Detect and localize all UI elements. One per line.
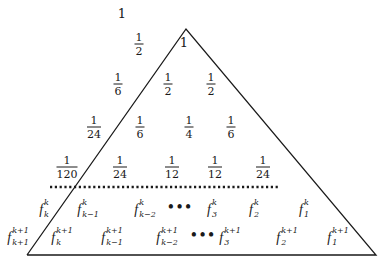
numerator: 1 xyxy=(114,72,123,84)
fraction-label: 124 xyxy=(87,115,101,140)
f-term-label: fk3 xyxy=(207,202,217,218)
f-term-label: fk+1k+1 xyxy=(7,230,29,246)
subscript: 1 xyxy=(332,239,349,247)
denominator: 24 xyxy=(87,128,101,140)
numerator: 1 xyxy=(63,155,72,167)
subscript: k−1 xyxy=(82,211,99,219)
numerator: 1 xyxy=(227,115,236,127)
f-term-label: fk+13 xyxy=(219,230,241,246)
denominator: 24 xyxy=(113,168,127,180)
denominator: 6 xyxy=(228,128,235,140)
numerator: 1 xyxy=(164,72,173,84)
fraction-label: 1120 xyxy=(57,155,78,180)
scripts: k2 xyxy=(254,202,259,218)
fraction-label: 124 xyxy=(113,155,127,180)
subscript: k−1 xyxy=(106,239,123,247)
denominator: 12 xyxy=(165,168,179,180)
superscript: k+1 xyxy=(281,227,298,235)
scripts: k3 xyxy=(212,202,217,218)
f-symbol: f xyxy=(7,231,11,245)
f-term-label: fk+1k−2 xyxy=(156,230,178,246)
f-symbol: f xyxy=(134,203,138,217)
f-term-label: fk1 xyxy=(299,202,309,218)
f-symbol: f xyxy=(39,203,43,217)
top-one-label: 1 xyxy=(118,7,126,20)
scripts: k+1k−2 xyxy=(161,230,178,246)
numerator: 1 xyxy=(168,155,177,167)
apex-one-label: 1 xyxy=(180,36,188,49)
denominator: 6 xyxy=(137,128,144,140)
superscript: k+1 xyxy=(332,227,349,235)
superscript: k xyxy=(254,199,259,207)
scripts: k+1k−1 xyxy=(106,230,123,246)
f-term-label: fkk xyxy=(39,202,49,218)
numerator: 1 xyxy=(207,72,216,84)
numerator: 1 xyxy=(185,115,194,127)
fraction-label: 16 xyxy=(227,115,236,140)
scripts: k+1k+1 xyxy=(12,230,29,246)
numerator: 1 xyxy=(116,155,125,167)
subscript: k−2 xyxy=(161,239,178,247)
denominator: 12 xyxy=(208,168,222,180)
superscript: k xyxy=(82,199,99,207)
numerator: 1 xyxy=(90,115,99,127)
f-symbol: f xyxy=(207,203,211,217)
fraction-label: 112 xyxy=(165,155,179,180)
numerator: 1 xyxy=(136,115,145,127)
denominator: 4 xyxy=(186,128,193,140)
superscript: k xyxy=(212,199,217,207)
ellipsis: ••• xyxy=(167,201,193,213)
fraction-label: 16 xyxy=(114,72,123,97)
f-symbol: f xyxy=(299,203,303,217)
scripts: k+12 xyxy=(281,230,298,246)
scripts: k+1k xyxy=(56,230,73,246)
f-symbol: f xyxy=(219,231,223,245)
numerator: 1 xyxy=(135,32,144,44)
subscript: k+1 xyxy=(12,239,29,247)
f-term-label: fkk−1 xyxy=(77,202,99,218)
superscript: k xyxy=(44,199,49,207)
denominator: 120 xyxy=(57,168,78,180)
triangle-outline xyxy=(27,29,376,255)
denominator: 24 xyxy=(256,168,270,180)
subscript: 2 xyxy=(281,239,298,247)
f-term-label: fk+12 xyxy=(276,230,298,246)
scripts: kk−1 xyxy=(82,202,99,218)
superscript: k+1 xyxy=(106,227,123,235)
scripts: k1 xyxy=(304,202,309,218)
f-term-label: fk+11 xyxy=(327,230,349,246)
triangle-diagram: 1 1 121612121241614161120124112112124 fk… xyxy=(0,0,385,265)
superscript: k+1 xyxy=(224,227,241,235)
fraction-label: 16 xyxy=(136,115,145,140)
fraction-label: 124 xyxy=(256,155,270,180)
superscript: k+1 xyxy=(12,227,29,235)
f-term-label: fk+1k xyxy=(51,230,73,246)
f-term-label: fk+1k−1 xyxy=(101,230,123,246)
denominator: 2 xyxy=(208,85,215,97)
f-term-label: fk2 xyxy=(249,202,259,218)
subscript: 3 xyxy=(212,211,217,219)
f-symbol: f xyxy=(77,203,81,217)
fraction-label: 12 xyxy=(164,72,173,97)
f-symbol: f xyxy=(249,203,253,217)
fraction-label: 12 xyxy=(207,72,216,97)
f-symbol: f xyxy=(51,231,55,245)
f-term-label: fkk−2 xyxy=(134,202,156,218)
fraction-label: 112 xyxy=(208,155,222,180)
scripts: k+13 xyxy=(224,230,241,246)
denominator: 6 xyxy=(115,85,122,97)
subscript: 2 xyxy=(254,211,259,219)
subscript: 3 xyxy=(224,239,241,247)
subscript: k−2 xyxy=(139,211,156,219)
subscript: k xyxy=(44,211,49,219)
fraction-label: 14 xyxy=(185,115,194,140)
f-symbol: f xyxy=(276,231,280,245)
f-symbol: f xyxy=(156,231,160,245)
scripts: kk xyxy=(44,202,49,218)
numerator: 1 xyxy=(211,155,220,167)
f-symbol: f xyxy=(101,231,105,245)
scripts: kk−2 xyxy=(139,202,156,218)
fraction-label: 12 xyxy=(135,32,144,57)
superscript: k+1 xyxy=(161,227,178,235)
scripts: k+11 xyxy=(332,230,349,246)
